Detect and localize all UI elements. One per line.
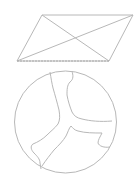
diagram-canvas — [0, 0, 136, 186]
diagonal-line — [17, 15, 133, 61]
outer-circle — [15, 71, 117, 173]
crack-right-outline-upper — [67, 71, 112, 121]
parallelogram-figure — [17, 15, 133, 61]
circle-figure — [15, 71, 117, 173]
crack-left-outline — [31, 72, 59, 169]
